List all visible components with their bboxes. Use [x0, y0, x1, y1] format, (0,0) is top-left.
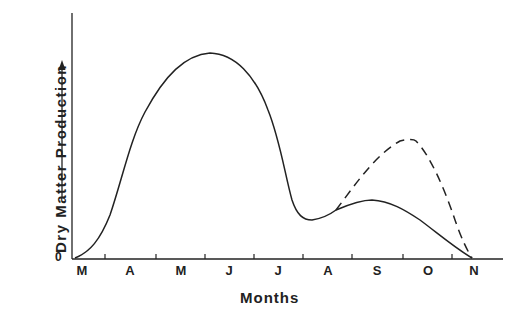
month-label: S — [373, 263, 382, 278]
month-label: M — [77, 263, 88, 278]
month-label: N — [469, 263, 478, 278]
month-label: O — [423, 263, 433, 278]
y-axis-label: Dry Matter Production — [52, 44, 69, 274]
solid-curve — [75, 53, 472, 258]
dashed-curve — [336, 140, 472, 259]
month-label: A — [323, 263, 332, 278]
y-origin-label: 0 — [55, 250, 62, 264]
month-label: J — [274, 263, 281, 278]
month-label: J — [225, 263, 232, 278]
x-ticks — [105, 254, 452, 259]
month-label: A — [125, 263, 134, 278]
x-axis-label: Months — [240, 289, 299, 306]
month-label: M — [176, 263, 187, 278]
